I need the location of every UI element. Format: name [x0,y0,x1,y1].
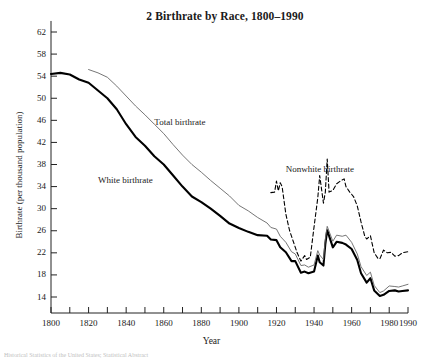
x-tick-label: 1820 [69,319,109,328]
annotation-total-birthrate: Total birthrate [154,118,205,127]
y-tick-label: 34 [18,182,46,191]
y-tick-label: 58 [18,50,46,59]
source-note: Historical Statistics of the United Stat… [4,352,148,358]
x-tick-label: 1990 [388,319,423,328]
x-tick-label: 1840 [106,319,146,328]
x-tick-label: 1940 [294,319,334,328]
annotation-white-birthrate: White birthrate [98,176,153,185]
y-tick-label: 18 [18,270,46,279]
y-tick-label: 30 [18,204,46,213]
x-axis-title: Year [0,336,423,346]
page-title: 2 Birthrate by Race, 1800–1990 [95,10,355,22]
y-tick-label: 42 [18,138,46,147]
plot-area [0,0,423,362]
x-tick-label: 1860 [144,319,184,328]
y-tick-label: 26 [18,226,46,235]
x-tick-label: 1920 [256,319,296,328]
x-tick-label: 1800 [31,319,71,328]
series-line-nonwhite-birthrate [271,159,408,261]
x-tick-label: 1880 [181,319,221,328]
axes-layer [51,21,408,313]
birthrate-chart-figure: 2 Birthrate by Race, 1800–1990 Birthrate… [0,0,423,362]
y-tick-label: 38 [18,160,46,169]
annotation-nonwhite-birthrate: Nonwhite birthrate [286,165,354,174]
y-tick-label: 62 [18,28,46,37]
x-tick-label: 1900 [219,319,259,328]
x-tick-label: 1960 [332,319,372,328]
y-tick-label: 46 [18,116,46,125]
y-tick-label: 54 [18,72,46,81]
y-tick-label: 22 [18,248,46,257]
y-tick-label: 14 [18,293,46,302]
y-tick-label: 50 [18,94,46,103]
